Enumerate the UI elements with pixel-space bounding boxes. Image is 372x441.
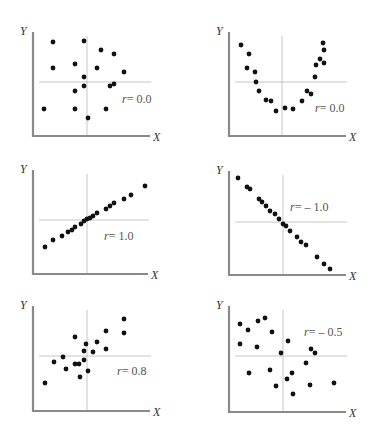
axes xyxy=(229,306,346,412)
data-point xyxy=(268,209,273,214)
data-point xyxy=(86,116,91,121)
scatter-panel-4: YXr= – 1.0 xyxy=(216,163,357,283)
data-point xyxy=(104,207,109,212)
data-point xyxy=(253,70,258,75)
x-axis-label: X xyxy=(348,130,357,144)
correlation-annotation: r= – 0.5 xyxy=(304,325,342,339)
data-point xyxy=(279,351,284,356)
data-point xyxy=(73,62,78,67)
correlation-annotation: r= 0.8 xyxy=(117,364,146,378)
data-point xyxy=(112,52,117,57)
data-point xyxy=(239,43,244,48)
data-point xyxy=(73,335,78,340)
data-point xyxy=(73,89,78,94)
data-point xyxy=(86,369,91,374)
data-point xyxy=(246,328,251,333)
data-point xyxy=(104,329,109,334)
y-axis-label: Y xyxy=(20,298,28,312)
data-point xyxy=(285,377,290,382)
data-point xyxy=(84,342,89,347)
data-point xyxy=(315,255,320,260)
data-point xyxy=(122,331,127,336)
data-point xyxy=(322,48,327,53)
data-point xyxy=(304,243,309,248)
data-point xyxy=(247,52,252,57)
data-point xyxy=(314,63,319,68)
scatter-panel-1: YXr= 0.0 xyxy=(20,24,161,144)
data-point xyxy=(60,234,65,239)
x-axis-label: X xyxy=(152,130,161,144)
data-point xyxy=(104,107,109,112)
data-point xyxy=(299,240,304,245)
data-point xyxy=(108,204,113,209)
data-point xyxy=(322,61,327,66)
data-point xyxy=(305,89,310,94)
data-point xyxy=(51,66,56,71)
data-point xyxy=(112,82,117,87)
data-point xyxy=(42,107,47,112)
data-point xyxy=(313,75,318,80)
data-point xyxy=(95,66,100,71)
y-axis-label: Y xyxy=(20,162,28,176)
data-point xyxy=(82,358,87,363)
data-point xyxy=(254,80,259,85)
data-point xyxy=(304,361,309,366)
data-point xyxy=(82,75,87,80)
data-point xyxy=(104,347,109,352)
data-point xyxy=(268,368,273,373)
scatter-panel-5: YXr= 0.8 xyxy=(20,298,161,419)
data-point xyxy=(122,70,127,75)
data-point xyxy=(274,384,279,389)
data-point xyxy=(269,99,274,104)
x-axis-label: X xyxy=(150,268,159,282)
data-point xyxy=(82,39,87,44)
correlation-scatter-grid: YXr= 0.0YXr= 0.0YXr= 1.0YXr= – 1.0YXr= 0… xyxy=(0,0,372,441)
data-point xyxy=(273,212,278,217)
data-point xyxy=(238,342,243,347)
data-point xyxy=(43,381,48,386)
data-point xyxy=(300,99,305,104)
data-point xyxy=(73,225,78,230)
data-point xyxy=(291,107,296,112)
data-point xyxy=(247,371,252,376)
data-point xyxy=(51,40,56,45)
data-point xyxy=(248,187,253,192)
data-point xyxy=(332,381,337,386)
axes xyxy=(229,32,346,136)
scatter-panel-3: YXr= 1.0 xyxy=(20,162,159,282)
data-point xyxy=(288,229,293,234)
axes xyxy=(33,32,150,136)
data-point xyxy=(264,98,269,103)
correlation-annotation: r= 0.0 xyxy=(122,92,151,106)
data-point xyxy=(61,355,66,360)
data-point xyxy=(122,197,127,202)
data-point xyxy=(277,217,282,222)
data-point xyxy=(255,345,260,350)
data-point xyxy=(257,89,262,94)
data-point xyxy=(91,350,96,355)
x-axis-label: X xyxy=(348,406,357,420)
data-point xyxy=(256,319,261,324)
data-point xyxy=(313,351,318,356)
data-point xyxy=(308,383,313,388)
data-point xyxy=(270,330,275,335)
data-point xyxy=(52,360,57,365)
scatter-panel-6: YXr= – 0.5 xyxy=(216,298,357,420)
data-point xyxy=(264,204,269,209)
data-point xyxy=(238,322,243,327)
y-axis-label: Y xyxy=(216,24,224,38)
data-point xyxy=(274,109,279,114)
data-point xyxy=(290,371,295,376)
data-point xyxy=(91,214,96,219)
scatter-panel-2: YXr= 0.0 xyxy=(216,24,357,144)
data-point xyxy=(283,106,288,111)
data-point xyxy=(112,201,117,206)
data-point xyxy=(309,347,314,352)
data-point xyxy=(260,200,265,205)
data-point xyxy=(143,184,148,189)
axes xyxy=(33,170,148,274)
correlation-annotation: r= 1.0 xyxy=(104,229,133,243)
data-point xyxy=(51,238,56,243)
data-point xyxy=(295,235,300,240)
data-point xyxy=(321,41,326,46)
